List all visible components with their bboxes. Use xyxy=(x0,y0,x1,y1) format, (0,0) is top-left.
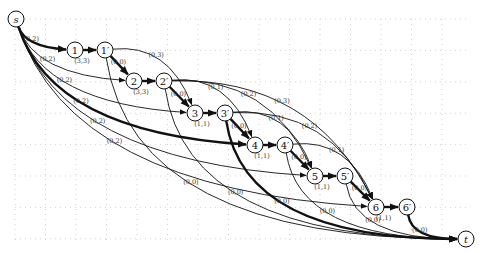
node-label-4p: 4′ xyxy=(281,140,290,151)
node-label-4: 4 xyxy=(252,140,258,151)
node-label-6: 6 xyxy=(373,202,379,213)
node-3: 3 xyxy=(187,105,203,121)
node-label-3p: 3′ xyxy=(221,108,230,119)
node-label-6p: 6′ xyxy=(403,202,412,213)
edge-label-4p-6: (0,1) xyxy=(329,146,345,154)
edge-label-5p-t: (0,0) xyxy=(365,216,381,224)
edge-label-4p-t: (0,0) xyxy=(320,207,336,215)
node-3p: 3′ xyxy=(217,105,233,121)
edge-label-2p-3: (0,0) xyxy=(171,90,187,98)
node-label-5: 5 xyxy=(312,171,318,182)
edge-label-s-1: (0,2) xyxy=(24,35,40,43)
node-1p: 1′ xyxy=(97,42,113,58)
node-label-3: 3 xyxy=(192,108,198,119)
edge-label-s-2: (0,2) xyxy=(40,55,56,63)
node-2p: 2′ xyxy=(156,73,172,89)
edge-label-s-6: (0,2) xyxy=(107,137,123,145)
node-4: 4 xyxy=(247,137,263,153)
edge-label-1p-2: (0,0) xyxy=(111,58,127,66)
edge-label-5p-6: (0,0) xyxy=(352,184,368,192)
edge-label-1p-3: (0,3) xyxy=(148,51,164,59)
edge-s-3 xyxy=(18,27,186,113)
edge-label-3p-4: (0,0) xyxy=(231,122,247,130)
edge-label-3p-6: (0,2) xyxy=(302,122,318,130)
edge-label-4p-5: (0,0) xyxy=(291,153,307,161)
node-label-1p: 1′ xyxy=(101,45,110,56)
edge-label-2p-5: (0,2) xyxy=(241,90,257,98)
node-label-s: s xyxy=(13,14,18,25)
edge-label-2p-t: (0,0) xyxy=(228,188,244,196)
edge-label-2p-4: (0,1) xyxy=(208,83,224,91)
node-label-1: 1 xyxy=(72,45,78,56)
node-label-5p: 5′ xyxy=(341,171,350,182)
node-6p: 6′ xyxy=(399,199,415,215)
node-t: t xyxy=(458,231,474,247)
node-6: 6 xyxy=(368,199,384,215)
node-s: s xyxy=(8,11,24,27)
edge-label-s-5: (0,2) xyxy=(90,117,106,125)
node-1: 1 xyxy=(67,42,83,58)
node-5: 5 xyxy=(307,168,323,184)
edge-label-1p-t: (0,0) xyxy=(183,178,199,186)
edge-label-s-4: (0,2) xyxy=(73,97,89,105)
edge-label-6p-t: (0,0) xyxy=(412,226,428,234)
node-4p: 4′ xyxy=(277,137,293,153)
flow-network-diagram: (0,2)(0,2)(0,2)(0,2)(0,2)(0,2)(3,3)(3,3)… xyxy=(0,0,482,253)
edge-label-3p-5: (0,1) xyxy=(268,114,284,122)
node-label-2p: 2′ xyxy=(160,76,169,87)
node-label-2: 2 xyxy=(131,76,137,87)
edge-label-s-3: (0,2) xyxy=(57,76,73,84)
edge-labels-layer: (0,2)(0,2)(0,2)(0,2)(0,2)(0,2)(3,3)(3,3)… xyxy=(24,35,428,233)
edge-label-3p-t: (0,0) xyxy=(274,197,290,205)
edge-label-2p-6: (0,3) xyxy=(274,97,290,105)
node-2: 2 xyxy=(126,73,142,89)
node-5p: 5′ xyxy=(337,168,353,184)
